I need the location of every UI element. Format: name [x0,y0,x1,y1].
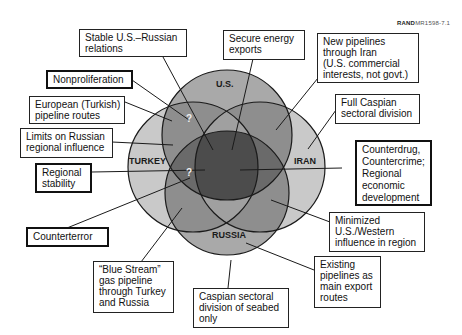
question-mark: ? [186,167,192,178]
label-russia: RUSSIA [212,230,246,240]
callout-stable-us-russia: Stable U.S.–Russianrelations [79,29,187,57]
label-iran: IRAN [294,156,316,166]
callout-new-pipelines-iran: New pipelinesthrough Iran(U.S. commercia… [317,33,419,83]
callout-blue-stream: “Blue Stream”gas pipelinethrough Turkeya… [93,261,174,313]
label-us: U.S. [216,79,234,89]
figure-tag: RANDMR1598-7.1 [397,20,450,26]
callout-secure-energy: Secure energyexports [223,30,305,60]
callout-regional-stability: Regionalstability [35,163,92,193]
callout-nonproliferation: Nonproliferation [46,70,133,89]
callout-counterterror: Counterterror [26,227,109,247]
callout-limits-russian: Limits on Russianregional influence [20,128,113,158]
callout-caspian-seabed: Caspian sectoraldivision of seabedonly [193,288,289,328]
callout-counterdrug: Counterdrug,Countercrime;Regionaleconomi… [355,140,432,206]
callout-full-caspian: Full Caspiansectoral division [335,94,420,124]
callout-minimized-western: MinimizedU.S./Westerninfluence in region [329,212,425,252]
question-mark: ? [186,113,192,124]
callout-european-pipeline: European (Turkish)pipeline routes [29,96,125,124]
label-turkey: TURKEY [129,156,166,166]
callout-existing-pipelines: Existingpipelines asmain exportroutes [314,256,381,308]
